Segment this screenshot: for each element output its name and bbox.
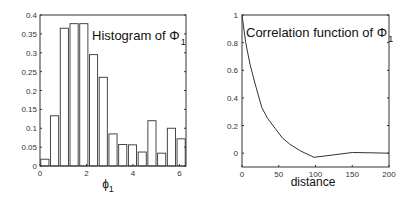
histogram-xlabel: ϕ1 <box>102 177 114 194</box>
x-tick-label: 150 <box>346 170 360 179</box>
y-tick-label: 0.35 <box>21 30 37 39</box>
correlation-plot: 00.20.40.60.81050100150200Correlation fu… <box>227 11 396 189</box>
y-tick-label: 0.4 <box>227 94 239 103</box>
x-tick-label: 0 <box>240 170 245 179</box>
y-tick-label: 1 <box>234 11 239 20</box>
x-tick-label: 2 <box>84 169 89 178</box>
y-tick-label: 0.15 <box>21 105 37 114</box>
histogram-bar <box>167 128 175 166</box>
y-tick-label: 0.05 <box>21 143 37 152</box>
histogram-bar <box>99 77 107 166</box>
x-tick-label: 50 <box>274 170 283 179</box>
x-tick-label: 4 <box>131 169 136 178</box>
x-tick-label: 200 <box>382 170 396 179</box>
histogram-bar <box>89 55 97 166</box>
y-tick-label: 0.2 <box>227 122 239 131</box>
figure: 00.050.10.150.20.250.30.350.40246Histogr… <box>0 0 417 203</box>
x-tick-label: 0 <box>38 169 43 178</box>
correlation-title: Correlation function of Φ1 <box>246 25 393 44</box>
y-tick-label: 0.1 <box>26 124 38 133</box>
histogram-bar <box>80 24 88 166</box>
y-tick-label: 0.6 <box>227 66 239 75</box>
histogram-bar <box>70 24 78 166</box>
histogram-bar <box>158 153 166 166</box>
y-tick-label: 0.2 <box>26 87 38 96</box>
histogram-bar <box>177 139 185 166</box>
y-tick-label: 0.8 <box>227 39 239 48</box>
histogram-bar <box>128 145 136 166</box>
histogram-bar <box>60 28 68 166</box>
y-tick-label: 0.25 <box>21 68 37 77</box>
y-tick-label: 0 <box>234 149 239 158</box>
histogram-bar <box>51 116 59 166</box>
y-tick-label: 0.4 <box>26 11 38 20</box>
histogram-bar <box>119 144 127 166</box>
histogram-bar <box>109 134 117 166</box>
histogram-title: Histogram of Φ1 <box>92 28 186 47</box>
histogram-bar <box>148 121 156 166</box>
x-tick-label: 6 <box>177 169 182 178</box>
y-tick-label: 0.3 <box>26 49 38 58</box>
histogram-bar <box>41 159 49 166</box>
histogram-plot: 00.050.10.150.20.250.30.350.40246Histogr… <box>21 11 186 194</box>
correlation-xlabel: distance <box>291 175 336 189</box>
histogram-bar <box>138 152 146 166</box>
